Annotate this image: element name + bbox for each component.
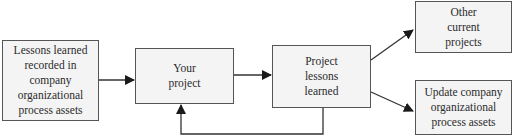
node-project-lessons-learned: Project lessons learned xyxy=(272,45,371,108)
node-update-company-assets: Update company organizational process as… xyxy=(415,80,512,135)
node-your-project: Your project xyxy=(135,48,234,104)
node-label: Update company organizational process as… xyxy=(424,85,502,130)
node-lessons-recorded-in-assets: Lessons learned recorded in company orga… xyxy=(2,40,99,121)
node-label: Project lessons learned xyxy=(305,54,339,99)
arrow-lessons-to-other-projects xyxy=(371,30,413,60)
node-other-current-projects: Other current projects xyxy=(415,1,512,53)
node-label: Other current projects xyxy=(445,5,481,50)
arrow-feedback-loop xyxy=(181,105,323,134)
arrow-lessons-to-update-assets xyxy=(371,92,413,111)
node-label: Lessons learned recorded in company orga… xyxy=(14,43,88,118)
node-label: Your project xyxy=(169,61,201,91)
